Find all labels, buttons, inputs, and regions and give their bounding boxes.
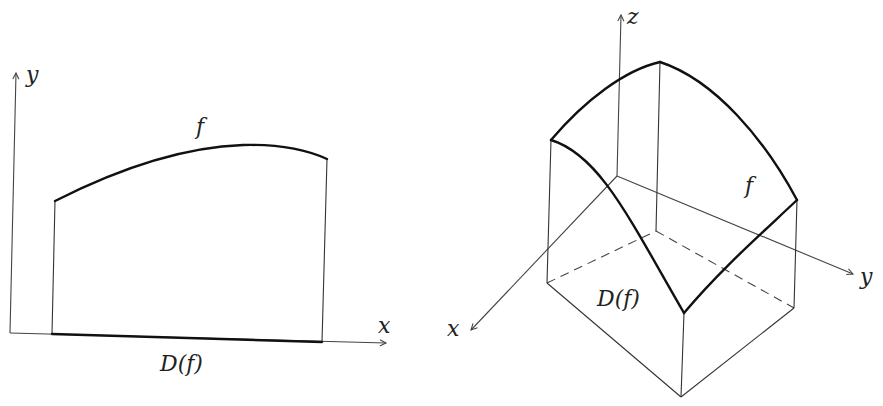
left-boundary-line [52,201,55,334]
hidden-base-edge-left [547,231,656,283]
y-axis-3d-label: y [859,264,873,289]
domain-segment [52,334,322,342]
front-vertical-edge [681,313,684,397]
back-vertical-edge [656,62,660,231]
z-axis [617,15,621,176]
domain-label: D(f) [159,351,203,376]
surface-label-f: f [743,173,757,198]
base-edge-front-right [681,308,794,397]
y-axis-label: y [25,62,39,87]
z-axis-label: z [626,4,639,29]
x-axis-3d-label: x [447,316,460,341]
curve-label-f: f [194,114,208,139]
left-2d-graph: y x f D(f) [10,62,391,376]
right-3d-graph: z y x f D(f) [447,4,873,397]
x-axis-3d [471,176,617,330]
y-axis [10,73,16,333]
surface-edge-back-right [660,62,797,200]
left-vertical-edge [547,140,551,283]
surface-edge-back-left [551,62,660,140]
x-axis-label: x [378,313,391,338]
function-domain-diagram: y x f D(f) z y x f D(f) [0,0,883,406]
right-vertical-edge [794,200,797,308]
function-curve-f [55,145,327,201]
domain-label-3d: D(f) [596,286,640,311]
right-boundary-line [322,159,327,342]
